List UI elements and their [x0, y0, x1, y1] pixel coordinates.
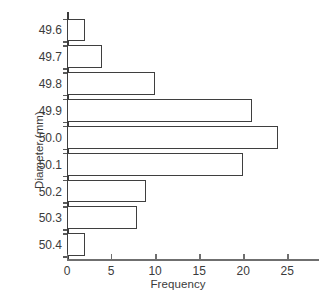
y-axis-tick-label: 49.6	[18, 24, 62, 36]
y-axis-tick	[63, 149, 68, 150]
x-axis-tick-label: 0	[52, 265, 82, 278]
x-axis-tick	[199, 254, 200, 259]
bar	[67, 180, 146, 203]
y-axis-tick	[63, 206, 68, 207]
y-axis-tick	[63, 122, 68, 123]
y-axis-tick	[63, 41, 68, 42]
x-axis-tick	[155, 254, 156, 259]
x-axis-tick-label: 15	[184, 265, 214, 278]
y-axis-tick	[63, 19, 68, 20]
bar	[67, 45, 102, 68]
bar	[67, 72, 155, 95]
bar	[67, 153, 243, 176]
x-axis-tick	[67, 254, 68, 259]
y-axis-tick-label: 49.7	[18, 51, 62, 63]
x-axis-tick	[111, 254, 112, 259]
y-axis-tick-label: 49.8	[18, 78, 62, 90]
bar	[67, 126, 278, 149]
x-axis-tick	[287, 254, 288, 259]
x-axis-tick-label: 20	[228, 265, 258, 278]
x-axis-title: Frequency	[67, 278, 289, 290]
y-axis-tick	[63, 180, 68, 181]
y-axis-tick-label: 49.9	[18, 105, 62, 117]
y-axis-tick	[63, 202, 68, 203]
x-axis-tick-label: 10	[140, 265, 170, 278]
y-axis-tick	[63, 99, 68, 100]
x-axis-tick-labels: 0510152025	[67, 259, 319, 279]
bars-layer	[67, 12, 319, 259]
y-axis-tick-label: 50.3	[18, 212, 62, 224]
bar	[67, 206, 137, 229]
bar	[67, 99, 252, 122]
y-axis-tick-label: 50.4	[18, 239, 62, 251]
y-axis-tick	[63, 45, 68, 46]
y-axis-tick	[63, 153, 68, 154]
y-axis-tick	[63, 126, 68, 127]
bar	[67, 233, 85, 256]
y-axis-tick-label: 50.0	[18, 132, 62, 144]
plot-area	[67, 12, 319, 259]
y-axis-tick-label: 50.2	[18, 186, 62, 198]
y-axis-tick	[63, 233, 68, 234]
y-axis-tick-label: 50.1	[18, 159, 62, 171]
y-axis-tick	[63, 72, 68, 73]
y-axis-tick	[63, 68, 68, 69]
y-axis-tick	[63, 176, 68, 177]
bar	[67, 19, 85, 42]
x-axis-tick	[243, 254, 244, 259]
histogram-chart: Diameter (mm) 49.649.749.849.950.050.150…	[0, 0, 323, 300]
x-axis-tick-label: 5	[96, 265, 126, 278]
y-axis-tick	[63, 229, 68, 230]
x-axis-tick-label: 25	[272, 265, 302, 278]
y-axis-tick	[63, 95, 68, 96]
